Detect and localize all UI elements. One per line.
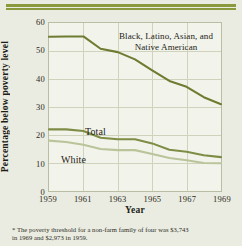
- series-label-total: Total: [85, 126, 106, 137]
- x-tick-label: 1959: [39, 194, 57, 204]
- y-tick-label: 10: [36, 159, 45, 169]
- top-decorative-rules: [6, 4, 236, 10]
- footnote: * The poverty threshold for a non-farm f…: [12, 226, 234, 241]
- series-label-minority: Black, Latino, Asian, and Native America…: [111, 31, 221, 52]
- chart-figure: Percentage below poverty level 60 50 40 …: [0, 0, 242, 246]
- y-tick-label: 20: [36, 130, 45, 140]
- y-tick-label: 40: [36, 74, 45, 84]
- x-tick-label: 1963: [109, 194, 127, 204]
- y-tick-label: 30: [36, 102, 45, 112]
- rule-thin: [6, 8, 236, 10]
- x-tick-label: 1967: [178, 194, 196, 204]
- y-axis-ticks: 60 50 40 30 20 10 0: [22, 22, 45, 192]
- plot-area: Black, Latino, Asian, and Native America…: [48, 22, 222, 192]
- y-tick-label: 50: [36, 45, 45, 55]
- y-axis-title-text: Percentage below poverty level: [0, 41, 10, 172]
- y-tick-label: 60: [36, 17, 45, 27]
- x-tick-label: 1961: [74, 194, 92, 204]
- footnote-line-2: in 1969 and $2,973 in 1959.: [12, 234, 234, 242]
- series-label-white: White: [61, 154, 86, 165]
- x-tick-label: 1969: [213, 194, 231, 204]
- series-label-minority-line2: Native American: [111, 42, 221, 53]
- x-tick-label: 1965: [143, 194, 161, 204]
- y-axis-title: Percentage below poverty level: [0, 22, 12, 192]
- x-axis-title: Year: [48, 205, 222, 215]
- series-label-minority-line1: Black, Latino, Asian, and: [111, 31, 221, 42]
- footnote-line-1: * The poverty threshold for a non-farm f…: [12, 226, 234, 234]
